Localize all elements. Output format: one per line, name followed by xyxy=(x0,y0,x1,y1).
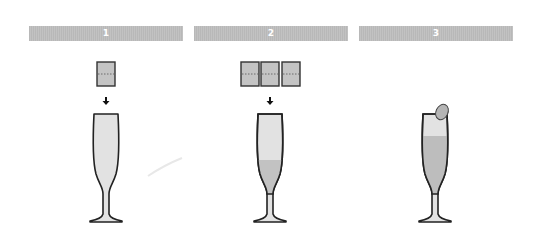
ice-cube-icon xyxy=(261,62,279,86)
motion-streak xyxy=(148,158,182,176)
ice-cube-icon xyxy=(241,62,259,86)
arrow-down-icon xyxy=(103,97,110,105)
step-1-illustration xyxy=(90,62,182,222)
illustration xyxy=(0,0,539,246)
ice-cube-icon xyxy=(282,62,300,86)
champagne-glass-partial xyxy=(254,114,286,222)
ice-cube-icon xyxy=(97,62,115,86)
step-2-illustration xyxy=(241,62,300,222)
step-3-illustration xyxy=(419,102,451,222)
champagne-glass-full xyxy=(419,114,451,222)
champagne-glass-empty xyxy=(90,114,122,222)
arrow-down-icon xyxy=(267,97,274,105)
